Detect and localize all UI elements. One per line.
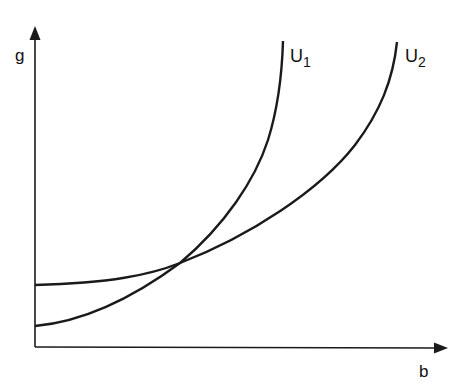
curve-u2-label: U2	[405, 46, 426, 70]
curve-u2	[35, 42, 397, 285]
x-axis-label: b	[419, 362, 428, 381]
y-axis-label: g	[15, 46, 24, 65]
x-axis: b	[35, 343, 448, 382]
y-axis-arrow-icon	[30, 26, 41, 40]
svg-text:U1: U1	[290, 46, 311, 70]
curve-u1-label: U1	[290, 46, 311, 70]
y-axis: g	[15, 26, 41, 347]
indifference-curves-diagram: g b U1 U2	[0, 0, 461, 391]
x-axis-arrow-icon	[434, 343, 448, 354]
svg-text:U2: U2	[405, 46, 426, 70]
